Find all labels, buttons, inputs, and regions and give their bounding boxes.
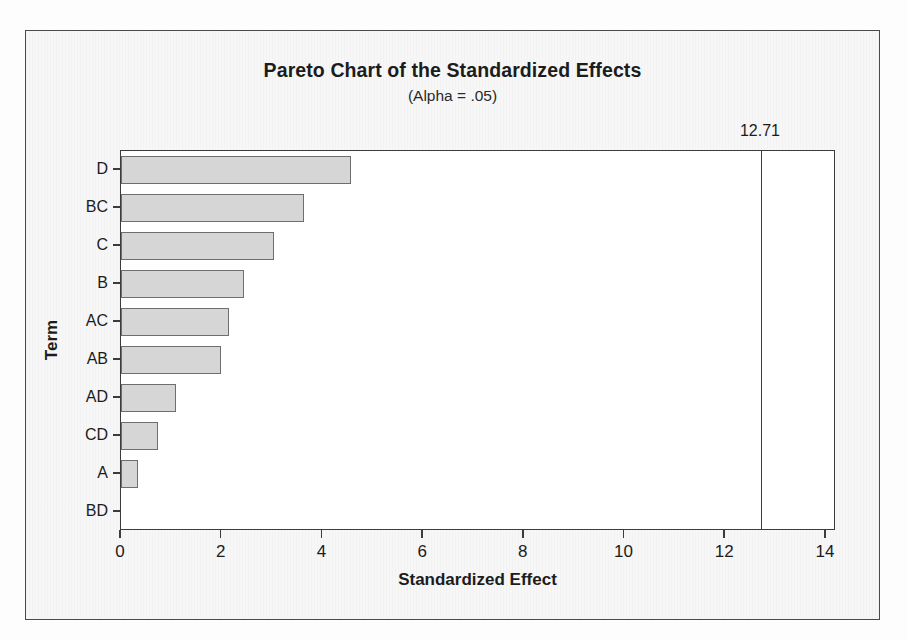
plot-area bbox=[120, 150, 835, 530]
bar-c bbox=[121, 232, 274, 259]
x-axis-title: Standardized Effect bbox=[120, 570, 835, 590]
x-tick-mark bbox=[119, 530, 121, 538]
figure-page: Pareto Chart of the Standardized Effects… bbox=[0, 0, 907, 640]
y-tick-label-bc: BC bbox=[86, 198, 108, 216]
bar-bc bbox=[121, 194, 304, 221]
y-tick-mark bbox=[113, 206, 120, 208]
reference-line-label: 12.71 bbox=[740, 122, 780, 140]
x-tick-label-10: 10 bbox=[614, 542, 633, 562]
y-tick-label-ad: AD bbox=[86, 388, 108, 406]
x-tick-label-14: 14 bbox=[815, 542, 834, 562]
chart-title: Pareto Chart of the Standardized Effects bbox=[26, 59, 879, 82]
bar-ac bbox=[121, 308, 229, 335]
y-tick-label-b: B bbox=[97, 274, 108, 292]
x-tick-mark bbox=[824, 530, 826, 538]
x-tick-mark bbox=[220, 530, 222, 538]
y-tick-mark bbox=[113, 396, 120, 398]
y-tick-label-cd: CD bbox=[85, 426, 108, 444]
y-tick-label-bd: BD bbox=[86, 502, 108, 520]
x-tick-label-2: 2 bbox=[216, 542, 225, 562]
x-tick-label-0: 0 bbox=[115, 542, 124, 562]
x-tick-label-8: 8 bbox=[518, 542, 527, 562]
y-tick-label-a: A bbox=[97, 464, 108, 482]
y-tick-label-c: C bbox=[96, 236, 108, 254]
x-tick-label-6: 6 bbox=[417, 542, 426, 562]
y-tick-mark bbox=[113, 434, 120, 436]
y-tick-label-ab: AB bbox=[87, 350, 108, 368]
x-tick-mark bbox=[321, 530, 323, 538]
y-tick-mark bbox=[113, 168, 120, 170]
y-tick-mark bbox=[113, 282, 120, 284]
bar-b bbox=[121, 270, 244, 297]
bar-ad bbox=[121, 384, 176, 411]
bar-a bbox=[121, 460, 138, 487]
reference-line bbox=[761, 151, 763, 529]
x-tick-mark bbox=[421, 530, 423, 538]
y-tick-mark bbox=[113, 358, 120, 360]
x-tick-label-12: 12 bbox=[715, 542, 734, 562]
y-tick-mark bbox=[113, 244, 120, 246]
bar-cd bbox=[121, 422, 158, 449]
chart-subtitle: (Alpha = .05) bbox=[26, 87, 879, 105]
y-tick-label-d: D bbox=[96, 160, 108, 178]
x-tick-label-4: 4 bbox=[317, 542, 326, 562]
bar-d bbox=[121, 156, 351, 183]
y-tick-mark bbox=[113, 320, 120, 322]
x-tick-mark bbox=[522, 530, 524, 538]
x-tick-mark bbox=[723, 530, 725, 538]
y-tick-mark bbox=[113, 510, 120, 512]
y-axis-title: Term bbox=[42, 320, 62, 360]
y-tick-mark bbox=[113, 472, 120, 474]
x-tick-mark bbox=[623, 530, 625, 538]
bar-ab bbox=[121, 346, 221, 373]
y-tick-label-ac: AC bbox=[86, 312, 108, 330]
